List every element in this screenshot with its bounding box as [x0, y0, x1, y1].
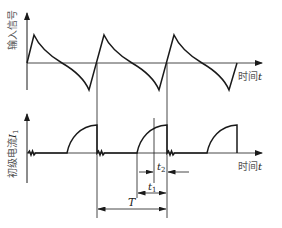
- t2-label: t2: [157, 161, 166, 174]
- primary-current-graph: 初级电流I1 时间t: [6, 114, 263, 183]
- timing-diagram: 输入信号 时间t 初级电流I1 时间t t2: [0, 0, 282, 228]
- bottom-x-label: 时间t: [238, 160, 263, 172]
- primary-current-waveform: [28, 125, 237, 155]
- top-x-label: 时间t: [238, 70, 263, 82]
- top-y-label: 输入信号: [6, 10, 18, 50]
- t1-dimension: t1: [137, 153, 166, 198]
- input-signal-graph: 输入信号 时间t: [6, 10, 263, 90]
- input-signal-waveform: [27, 35, 237, 90]
- period-label: T: [128, 196, 137, 209]
- period-dimension: T: [98, 196, 166, 209]
- bottom-y-label: 初级电流I1: [6, 130, 20, 178]
- t1-label: t1: [148, 181, 157, 194]
- t2-dimension: t2: [139, 118, 189, 183]
